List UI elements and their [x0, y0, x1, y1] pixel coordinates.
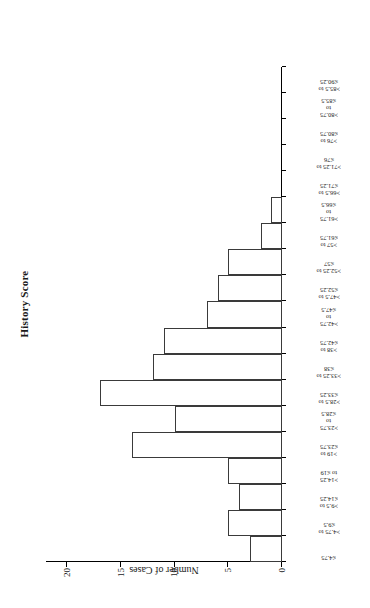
histogram-bar: [271, 197, 282, 223]
category-label: >85.5 to ≤90.25: [286, 67, 370, 93]
category-label: >4.75 to ≤9.5: [286, 510, 370, 536]
histogram-bar: [228, 458, 282, 484]
category-axis-labels: ≤4.75>4.75 to ≤9.5>9.5 to ≤14.25>14.25 t…: [282, 67, 370, 562]
category-label: >23.75 to ≤28.5: [286, 406, 370, 432]
category-label: ≤4.75: [286, 536, 370, 562]
category-label: >28.5 to ≤33.25: [286, 380, 370, 406]
histogram-bar: [228, 249, 282, 275]
category-label: >42.75 to ≤47.5: [286, 301, 370, 327]
histogram-bar: [100, 380, 282, 406]
histogram-bar: [218, 275, 282, 301]
value-axis-title: Number of Cases: [84, 565, 244, 576]
value-axis-line: [46, 561, 282, 562]
histogram-bar: [207, 301, 282, 327]
plot-area: 05101520 Number of Cases: [46, 67, 282, 562]
category-label: >19 to ≤23.75: [286, 432, 370, 458]
page-title: History Score: [18, 0, 30, 608]
category-label: >80.75 to ≤85.5: [286, 93, 370, 119]
category-label: >57 to ≤61.75: [286, 223, 370, 249]
category-label: >14.25 to ≤19: [286, 458, 370, 484]
category-label: >71.25 to ≤76: [286, 145, 370, 171]
chart-figure: History Score 05101520 Number of Cases ≤…: [0, 0, 370, 608]
histogram-bar: [250, 536, 282, 562]
category-label: >33.25 to ≤38: [286, 354, 370, 380]
category-label: >61.75 to ≤66.5: [286, 197, 370, 223]
value-tick: [66, 562, 67, 567]
histogram-bar: [164, 328, 282, 354]
category-label: >66.5 to ≤71.25: [286, 171, 370, 197]
category-label: >9.5 to ≤14.25: [286, 484, 370, 510]
histogram-bar: [132, 432, 282, 458]
histogram-bar: [239, 484, 282, 510]
histogram-bar: [228, 510, 282, 536]
value-tick-label: 0: [278, 568, 287, 590]
histogram-bar: [261, 223, 282, 249]
category-label: >76 to ≤80.75: [286, 119, 370, 145]
category-label: >47.5 to ≤52.25: [286, 275, 370, 301]
category-label: >52.25 to ≤57: [286, 249, 370, 275]
histogram-bar: [175, 406, 282, 432]
value-tick: [281, 562, 282, 567]
value-tick-label: 20: [63, 568, 72, 590]
histogram-bar: [153, 354, 282, 380]
category-label: >38 to ≤42.75: [286, 328, 370, 354]
